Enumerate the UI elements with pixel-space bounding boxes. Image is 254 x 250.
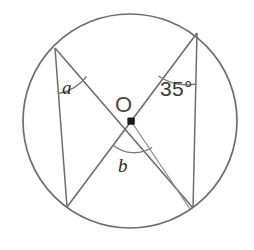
center-point-dot xyxy=(127,117,134,124)
center-point-label: O xyxy=(115,94,132,116)
angle-label-a: a xyxy=(62,78,72,97)
angle-label-b: b xyxy=(118,156,128,175)
geometry-canvas xyxy=(0,0,254,250)
chord-center-to-bottomright xyxy=(131,121,190,209)
chord-topright-to-bottomright xyxy=(193,33,197,208)
chord-topleft-to-bottomleft xyxy=(55,48,67,207)
chord-topleft-to-bottomright xyxy=(55,48,193,208)
angle-label-35-degrees: 35° xyxy=(160,78,193,99)
angle-arc-b xyxy=(114,146,153,153)
geometry-figure: a b 35° O xyxy=(0,0,254,250)
